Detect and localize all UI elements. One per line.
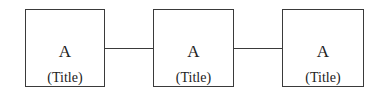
node-title: (Title) xyxy=(26,71,104,85)
node-box-3: A (Title) xyxy=(282,9,364,87)
connector-line-1-2 xyxy=(105,48,153,49)
connector-line-2-3 xyxy=(234,48,282,49)
node-label: A xyxy=(154,43,233,60)
node-title: (Title) xyxy=(283,71,363,85)
node-label: A xyxy=(283,43,363,60)
node-box-1: A (Title) xyxy=(25,9,105,87)
node-title: (Title) xyxy=(154,71,233,85)
node-label: A xyxy=(26,43,104,60)
node-box-2: A (Title) xyxy=(153,9,234,87)
